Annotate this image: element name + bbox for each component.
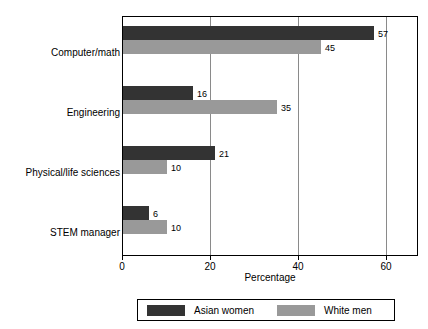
category-label-physical-life-sciences: Physical/life sciences — [2, 167, 120, 178]
bar-engineering-white-men — [123, 100, 277, 114]
x-tick-label-40: 40 — [292, 261, 303, 272]
bar-value-engineering-asian-women: 16 — [197, 89, 207, 99]
legend-swatch-asian-women — [147, 305, 185, 316]
x-tick-mark-20 — [210, 256, 211, 260]
category-label-stem-manager: STEM manager — [2, 227, 120, 238]
x-tick-mark-60 — [386, 256, 387, 260]
bar-engineering-asian-women — [123, 86, 193, 100]
bar-computer-math-white-men — [123, 40, 321, 54]
legend-swatch-white-men — [277, 305, 315, 316]
bar-value-computer-math-asian-women: 57 — [378, 29, 388, 39]
bar-chart-figure: Computer/math Engineering Physical/life … — [0, 0, 428, 329]
bar-value-physical-life-sciences-white-men: 10 — [171, 163, 181, 173]
legend-label-white-men: White men — [324, 305, 372, 316]
x-tick-label-20: 20 — [204, 261, 215, 272]
chart-legend: Asian women White men — [137, 299, 395, 321]
x-tick-label-0: 0 — [119, 261, 125, 272]
plot-area: 57 45 16 35 21 10 6 10 — [122, 16, 418, 256]
category-label-computer-math: Computer/math — [2, 47, 120, 58]
category-label-engineering: Engineering — [2, 107, 120, 118]
bar-physical-life-sciences-asian-women — [123, 146, 215, 160]
bar-value-physical-life-sciences-asian-women: 21 — [219, 149, 229, 159]
bar-computer-math-asian-women — [123, 26, 374, 40]
bar-physical-life-sciences-white-men — [123, 160, 167, 174]
bar-stem-manager-asian-women — [123, 206, 149, 220]
legend-entry-asian-women: Asian women — [147, 300, 254, 320]
legend-label-asian-women: Asian women — [194, 305, 254, 316]
x-tick-mark-40 — [298, 256, 299, 260]
legend-entry-white-men: White men — [277, 300, 372, 320]
bar-value-computer-math-white-men: 45 — [325, 43, 335, 53]
bar-value-engineering-white-men: 35 — [281, 103, 291, 113]
bar-value-stem-manager-asian-women: 6 — [153, 209, 158, 219]
x-tick-mark-0 — [122, 256, 123, 260]
category-axis-labels: Computer/math Engineering Physical/life … — [0, 16, 120, 256]
bar-value-stem-manager-white-men: 10 — [171, 223, 181, 233]
gridline-60 — [386, 17, 387, 255]
bar-stem-manager-white-men — [123, 220, 167, 234]
x-tick-label-60: 60 — [380, 261, 391, 272]
x-axis-title: Percentage — [122, 272, 418, 283]
